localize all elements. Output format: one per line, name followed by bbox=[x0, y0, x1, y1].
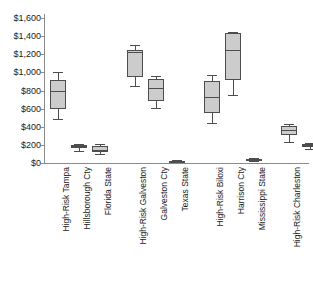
y-tick-label: $200 bbox=[21, 140, 41, 149]
box-iqr bbox=[127, 50, 143, 77]
x-tick-label: Texas State bbox=[181, 167, 190, 285]
cap-max bbox=[130, 45, 140, 46]
y-tick-mark bbox=[41, 54, 44, 55]
y-tick-label: $1,600 bbox=[13, 14, 41, 23]
box-iqr bbox=[50, 80, 66, 109]
median-line bbox=[92, 150, 108, 151]
cap-min bbox=[151, 108, 161, 109]
y-tick-mark bbox=[41, 109, 44, 110]
cap-min bbox=[130, 86, 140, 87]
box-plot-3 bbox=[92, 0, 108, 164]
y-tick-label: $1,000 bbox=[13, 68, 41, 77]
box-plot-1 bbox=[50, 0, 66, 164]
y-tick-mark bbox=[41, 18, 44, 19]
y-tick-mark bbox=[41, 91, 44, 92]
x-axis: High-Risk TampaHillsborough CtyFlorida S… bbox=[44, 164, 309, 287]
median-line bbox=[71, 146, 87, 147]
cap-min bbox=[74, 151, 84, 152]
median-line bbox=[127, 52, 143, 53]
cap-max bbox=[207, 75, 217, 76]
whisker-lower bbox=[135, 77, 136, 87]
y-tick-mark bbox=[41, 145, 44, 146]
y-tick-label: $400 bbox=[21, 122, 41, 131]
x-tick-label: High-Risk Galveston bbox=[139, 167, 148, 285]
cap-max bbox=[53, 72, 63, 73]
cap-min bbox=[284, 142, 294, 143]
y-axis: $1,600$1,400$1,200$1,000$800$600$400$200… bbox=[0, 0, 44, 175]
y-tick-label: $0 bbox=[31, 159, 41, 168]
box-plot-9 bbox=[246, 0, 262, 164]
median-line bbox=[225, 50, 241, 51]
x-tick-label: Galveston Cty bbox=[160, 167, 169, 285]
whisker-lower bbox=[212, 113, 213, 123]
y-tick-mark bbox=[41, 72, 44, 73]
median-line bbox=[281, 130, 297, 131]
x-tick-label: Harrison Cty bbox=[237, 167, 246, 285]
x-tick-label: Mississippi State bbox=[258, 167, 267, 285]
box-iqr bbox=[148, 79, 164, 101]
box-plot-11 bbox=[302, 0, 313, 164]
median-line bbox=[302, 145, 313, 146]
box-plot-chart: $1,600$1,400$1,200$1,000$800$600$400$200… bbox=[0, 0, 313, 287]
y-tick-label: $1,200 bbox=[13, 50, 41, 59]
x-tick-label: High-Risk Charleston bbox=[293, 167, 302, 285]
cap-min bbox=[305, 149, 313, 150]
y-tick-label: $1,400 bbox=[13, 32, 41, 41]
box-iqr bbox=[225, 33, 241, 80]
median-line bbox=[50, 91, 66, 92]
whisker-lower bbox=[58, 109, 59, 119]
box-plot-5 bbox=[148, 0, 164, 164]
median-line bbox=[246, 159, 262, 160]
whisker-lower bbox=[233, 80, 234, 95]
box-plot-10 bbox=[281, 0, 297, 164]
box-plot-6 bbox=[169, 0, 185, 164]
cap-min bbox=[228, 95, 238, 96]
whisker-upper bbox=[58, 72, 59, 79]
cap-min bbox=[207, 123, 217, 124]
median-line bbox=[169, 161, 185, 162]
x-tick-label: Florida State bbox=[104, 167, 113, 285]
y-tick-label: $600 bbox=[21, 104, 41, 113]
box-plot-7 bbox=[204, 0, 220, 164]
cap-min bbox=[53, 119, 63, 120]
cap-max bbox=[151, 76, 161, 77]
y-tick-mark bbox=[41, 127, 44, 128]
box-plot-8 bbox=[225, 0, 241, 164]
plot-area bbox=[44, 0, 309, 164]
whisker-lower bbox=[156, 101, 157, 108]
box-plot-4 bbox=[127, 0, 143, 164]
y-tick-mark bbox=[41, 163, 44, 164]
whisker-lower bbox=[289, 135, 290, 142]
median-line bbox=[148, 88, 164, 89]
x-tick-label: Hillsborough Cty bbox=[83, 167, 92, 285]
median-line bbox=[204, 97, 220, 98]
cap-min bbox=[95, 154, 105, 155]
box-plot-2 bbox=[71, 0, 87, 164]
x-tick-label: High-Risk Biloxi bbox=[216, 167, 225, 285]
y-tick-label: $800 bbox=[21, 86, 41, 95]
y-tick-mark bbox=[41, 36, 44, 37]
x-tick-label: High-Risk Tampa bbox=[62, 167, 71, 285]
